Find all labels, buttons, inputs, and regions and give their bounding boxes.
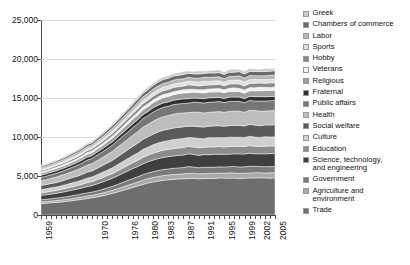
legend-swatch-icon — [303, 188, 309, 194]
x-axis-tick-label: 1987 — [187, 221, 196, 240]
x-axis-tick — [229, 216, 230, 219]
x-axis-tick — [138, 216, 139, 219]
legend-item[interactable]: Greek — [303, 9, 409, 18]
x-axis-tick — [168, 216, 169, 219]
x-axis-tick — [72, 216, 73, 219]
x-axis-tick — [143, 216, 144, 219]
y-axis-tick-label: 15,000 — [0, 94, 38, 103]
y-axis-tick — [37, 176, 41, 177]
legend-label: Religious — [313, 77, 344, 86]
x-axis-labels: 1959197019761980198319871991199519992002… — [41, 221, 279, 265]
legend-item[interactable]: Hobby — [303, 54, 409, 63]
legend-label: Government — [313, 175, 355, 184]
x-axis-tick — [112, 216, 113, 219]
legend-label: Veterans — [313, 65, 343, 74]
legend-swatch-icon — [303, 157, 309, 163]
legend-label: Labor — [313, 32, 332, 41]
x-axis-tick — [46, 216, 47, 219]
y-axis-tick-label: 0 — [0, 211, 38, 220]
legend-item[interactable]: Labor — [303, 32, 409, 41]
y-axis-tick-label: 25,000 — [0, 16, 38, 25]
legend-swatch-icon — [303, 67, 309, 73]
x-axis-tick-label: 2005 — [279, 221, 288, 240]
legend-item[interactable]: Science, technology, and engineering — [303, 156, 409, 173]
legend-item[interactable]: Sports — [303, 43, 409, 52]
x-axis-tick — [255, 216, 256, 219]
x-axis-tick — [214, 216, 215, 219]
legend-item[interactable]: Education — [303, 145, 409, 154]
x-axis-tick-label: 2002 — [263, 221, 272, 240]
legend-label: Agriculture and environment — [313, 187, 364, 204]
x-axis-tick — [92, 216, 93, 219]
stacked-area-chart-figure: 05,00010,00015,00020,00025,000 195919701… — [0, 0, 410, 265]
legend-swatch-icon — [303, 101, 309, 107]
y-axis-tick-label: 20,000 — [0, 55, 38, 64]
x-axis-tick — [270, 216, 271, 219]
legend-swatch-icon — [303, 33, 309, 39]
x-axis-tick — [82, 216, 83, 219]
x-axis-tick — [158, 216, 159, 219]
x-axis-tick-label: 1991 — [207, 221, 216, 240]
x-axis-tick-label: 1995 — [228, 221, 237, 240]
legend-item[interactable]: Health — [303, 111, 409, 120]
x-axis-tick-label: 1976 — [131, 221, 140, 240]
x-axis-tick — [51, 216, 52, 219]
legend-item[interactable]: Chambers of commerce — [303, 20, 409, 29]
legend-item[interactable]: Trade — [303, 206, 409, 215]
y-axis-tick — [37, 59, 41, 60]
legend-swatch-icon — [303, 177, 309, 183]
chart-legend: GreekChambers of commerceLaborSportsHobb… — [303, 9, 409, 217]
x-axis-tick — [234, 216, 235, 219]
x-axis-tick — [173, 216, 174, 219]
legend-item[interactable]: Fraternal — [303, 88, 409, 97]
legend-label: Health — [313, 111, 335, 120]
legend-item[interactable]: Public affairs — [303, 99, 409, 108]
stacked-area-series — [41, 20, 275, 215]
x-axis-tick — [128, 216, 129, 219]
x-axis-tick — [77, 216, 78, 219]
x-axis-tick — [260, 216, 261, 219]
x-axis-tick — [56, 216, 57, 219]
x-axis-tick — [194, 216, 195, 219]
legend-swatch-icon — [303, 44, 309, 50]
x-axis-tick-label: 1970 — [101, 221, 110, 240]
legend-swatch-icon — [303, 90, 309, 96]
legend-swatch-icon — [303, 135, 309, 141]
x-axis-tick — [122, 216, 123, 219]
legend-item[interactable]: Culture — [303, 133, 409, 142]
legend-item[interactable]: Social welfare — [303, 122, 409, 131]
legend-swatch-icon — [303, 11, 309, 17]
x-axis-tick — [163, 216, 164, 219]
x-axis-tick — [117, 216, 118, 219]
x-axis-tick — [219, 216, 220, 219]
legend-label: Trade — [313, 206, 333, 215]
x-axis-tick — [250, 216, 251, 219]
legend-label: Fraternal — [313, 88, 343, 97]
x-axis-tick — [199, 216, 200, 219]
x-axis-tick — [265, 216, 266, 219]
legend-swatch-icon — [303, 123, 309, 129]
legend-swatch-icon — [303, 112, 309, 118]
legend-item[interactable]: Government — [303, 175, 409, 184]
legend-item[interactable]: Agriculture and environment — [303, 187, 409, 204]
x-axis-tick — [224, 216, 225, 219]
x-axis-ticks — [41, 216, 276, 220]
x-axis-tick — [102, 216, 103, 219]
legend-label: Chambers of commerce — [313, 20, 394, 29]
x-axis-tick — [153, 216, 154, 219]
x-axis-tick — [107, 216, 108, 219]
legend-swatch-icon — [303, 208, 309, 214]
legend-item[interactable]: Veterans — [303, 65, 409, 74]
legend-label: Hobby — [313, 54, 335, 63]
x-axis-tick — [239, 216, 240, 219]
x-axis-tick — [87, 216, 88, 219]
y-axis-tick — [37, 98, 41, 99]
x-axis-tick — [61, 216, 62, 219]
x-axis-tick — [209, 216, 210, 219]
legend-swatch-icon — [303, 146, 309, 152]
plot-area — [41, 20, 275, 215]
x-axis-tick — [189, 216, 190, 219]
y-axis-tick-label: 5,000 — [0, 172, 38, 181]
legend-item[interactable]: Religious — [303, 77, 409, 86]
x-axis-tick-label: 1980 — [151, 221, 160, 240]
